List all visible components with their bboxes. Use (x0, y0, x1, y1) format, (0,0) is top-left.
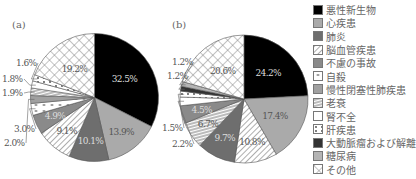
slice-label: 9.7% (215, 133, 237, 143)
legend-swatch (313, 31, 323, 41)
legend-swatch (313, 138, 323, 148)
legend-swatch (313, 45, 323, 55)
legend-item: 脳血管疾患 (313, 43, 416, 56)
legend-swatch (313, 151, 323, 161)
slice-label: 24.2% (255, 68, 282, 78)
legend-item: 肝疾患 (313, 123, 416, 136)
legend-swatch (313, 18, 323, 28)
callout-label: 1.9% (2, 88, 24, 98)
legend-swatch (313, 124, 323, 134)
legend-item: 心疾患 (313, 16, 416, 29)
slice-label: 13.9% (108, 127, 135, 137)
callout-label: 1.5% (162, 123, 184, 133)
slice-label: 19.2% (62, 64, 89, 74)
pie-chart-a: 32.5%13.9%10.1%9.1%4.9%19.2% (31, 34, 159, 162)
slice-label: 9.1% (56, 126, 78, 136)
callout-label: 1.2% (172, 57, 194, 67)
legend-item: 慢性閉塞性肺疾患 (313, 83, 416, 96)
legend-item: 肺炎 (313, 30, 416, 43)
legend-item: 糖尿病 (313, 149, 416, 162)
callout-label: 2.2% (172, 139, 194, 149)
pie-chart-b: 24.2%17.4%10.8%9.7%6.7%4.5%20.6% (180, 35, 308, 163)
legend-item: 悪性新生物 (313, 3, 416, 16)
legend-swatch (313, 58, 323, 68)
callout-label: 1.8% (2, 74, 24, 84)
slice-label: 4.5% (192, 105, 214, 115)
slice-label: 4.9% (45, 111, 67, 121)
slice-label: 6.7% (198, 119, 220, 129)
legend: 悪性新生物心疾患肺炎脳血管疾患不慮の事故自殺慢性閉塞性肺疾患老衰腎不全肝疾患大動… (313, 3, 416, 176)
legend-swatch (313, 111, 323, 121)
legend-label: その他 (326, 162, 356, 177)
panel-label-a: (a) (12, 19, 26, 30)
legend-swatch (313, 5, 323, 15)
legend-item: 不慮の事故 (313, 56, 416, 69)
legend-swatch (313, 164, 323, 174)
slice-label: 20.6% (210, 66, 237, 76)
slice-label: 10.8% (239, 137, 266, 147)
slice-label: 32.5% (112, 74, 139, 84)
legend-item: 自殺 (313, 69, 416, 82)
legend-swatch (313, 98, 323, 108)
callout-label: 3.0% (14, 124, 36, 134)
slice-label: 10.1% (78, 136, 105, 146)
panel-label-b: (b) (172, 19, 186, 30)
legend-item: その他 (313, 163, 416, 176)
legend-swatch (313, 84, 323, 94)
pie-slice (244, 35, 308, 99)
legend-swatch (313, 71, 323, 81)
callout-label: 1.6% (16, 58, 38, 68)
legend-item: 腎不全 (313, 109, 416, 122)
callout-label: 2.0% (4, 138, 26, 148)
slice-label: 17.4% (262, 111, 289, 121)
legend-item: 大動脈瘤および解離 (313, 136, 416, 149)
legend-item: 老衰 (313, 96, 416, 109)
